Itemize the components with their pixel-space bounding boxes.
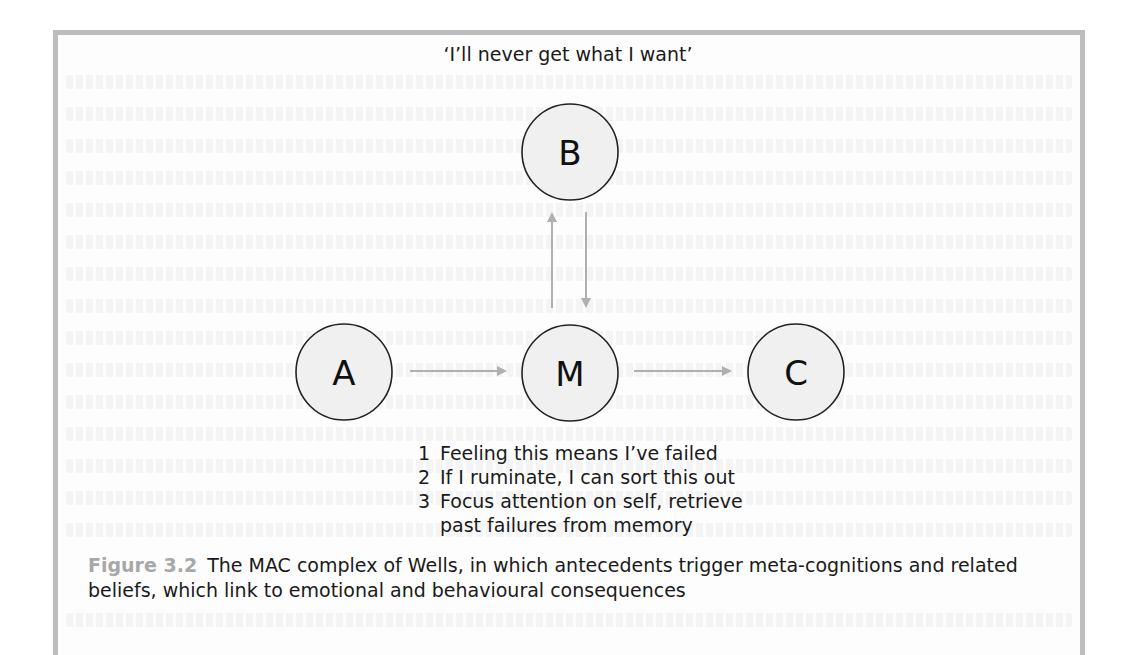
node-m: M — [522, 325, 618, 421]
m-beliefs-list: 1 Feeling this means I’ve failed 2 If I … — [418, 441, 780, 537]
m-belief-text: Focus attention on self, retrieve past f… — [440, 489, 780, 537]
node-a: A — [296, 324, 392, 420]
node-a-label: A — [332, 353, 355, 393]
node-c-label: C — [784, 353, 808, 393]
figure-caption-text: The MAC complex of Wells, in which antec… — [88, 554, 1018, 601]
m-belief-item: 3 Focus attention on self, retrieve past… — [418, 489, 780, 537]
node-b: B — [522, 104, 618, 200]
node-b-label: B — [558, 133, 581, 173]
node-m-label: M — [555, 354, 584, 394]
m-belief-number: 2 — [418, 465, 440, 489]
m-belief-item: 1 Feeling this means I’ve failed — [418, 441, 780, 465]
m-belief-number: 1 — [418, 441, 440, 465]
m-belief-item: 2 If I ruminate, I can sort this out — [418, 465, 780, 489]
figure-number: Figure 3.2 — [88, 554, 197, 576]
node-c: C — [748, 324, 844, 420]
m-belief-number: 3 — [418, 489, 440, 537]
m-belief-text: Feeling this means I’ve failed — [440, 441, 780, 465]
figure-caption: Figure 3.2The MAC complex of Wells, in w… — [88, 553, 1068, 603]
m-belief-text: If I ruminate, I can sort this out — [440, 465, 780, 489]
